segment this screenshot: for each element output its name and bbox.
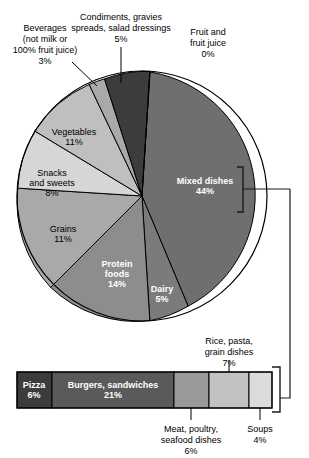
bar-label-rice-line2: grain dishes [205,347,254,357]
callout-condiments-line2: spreads, salad dressings [71,23,171,33]
pie-label-snacks-line1: Snacks [37,168,67,178]
callout-fruit-line1: Fruit and [190,27,226,37]
callout-condiments-line1: Condiments, gravies [80,12,163,22]
pie-value-snacks: 8% [45,188,58,198]
bar-value-meat: 6% [184,446,197,456]
bar-segment-meat-poultry-seafood[interactable] [174,372,209,408]
pie-value-vegetables: 11% [65,137,82,147]
chart-canvas: Mixed dishes 44% Dairy 5% Protein foods … [0,0,309,458]
bar-value-soups: 4% [253,435,266,445]
bar-label-pizza: Pizza [23,380,47,390]
bar-label-soups: Soups [247,424,273,434]
bar-label-burgers: Burgers, sandwiches [68,380,159,390]
pie-label-protein-foods-line2: foods [105,269,130,279]
pie-value-protein-foods: 14% [108,279,126,289]
bar-value-burgers: 21% [104,390,122,400]
pie-value-mixed-dishes: 44% [196,186,214,196]
callout-condiments-value: 5% [114,34,127,44]
bar-label-meat-line2: seafood dishes [161,435,222,445]
callout-beverages-line2: (not milk or [23,34,68,44]
bar-segment-soups[interactable] [249,372,272,408]
callout-fruit-line2: fruit juice [190,38,226,48]
pie-label-dairy: Dairy [151,284,174,294]
bar-label-rice-line1: Rice, pasta, [205,336,253,346]
pie-value-grains: 11% [54,234,71,244]
bar-value-rice: 7% [222,358,235,368]
callout-beverages-value: 3% [38,56,51,66]
pie-value-dairy: 5% [155,294,168,304]
callout-beverages-line1: Beverages [23,23,67,33]
pie-label-mixed-dishes: Mixed dishes [177,176,234,186]
pie-label-protein-foods-line1: Protein [101,259,132,269]
bar-segment-rice-pasta-grain[interactable] [209,372,249,408]
mixed-dishes-breakdown-bar [17,372,272,408]
food-sources-figure: Mixed dishes 44% Dairy 5% Protein foods … [0,0,309,458]
callout-fruit-value: 0% [201,49,214,59]
pie-label-snacks-line2: and sweets [29,178,75,188]
bar-label-meat-line1: Meat, poultry, [164,424,218,434]
pie-label-grains: Grains [50,224,77,234]
bar-value-pizza: 6% [27,390,40,400]
callout-beverages-line3: 100% fruit juice) [13,45,78,55]
pie-label-vegetables: Vegetables [52,127,97,137]
